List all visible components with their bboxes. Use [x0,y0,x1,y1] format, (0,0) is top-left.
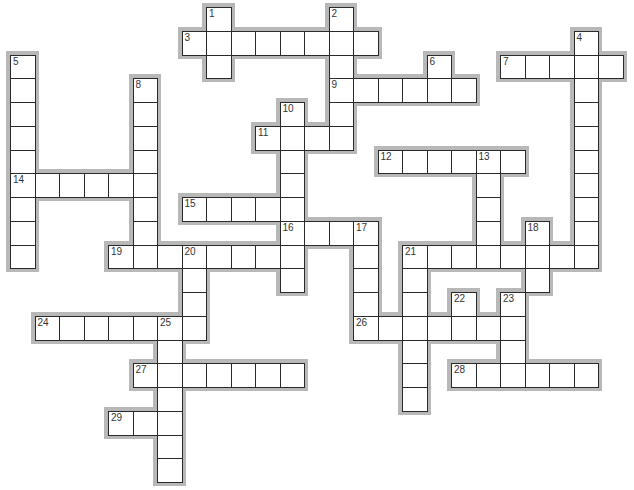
cell-letter-input[interactable] [60,317,84,340]
crossword-cell[interactable]: 2 [329,7,355,32]
cell-letter-input[interactable] [428,246,452,269]
crossword-cell[interactable] [574,126,600,151]
crossword-cell[interactable] [329,126,355,151]
crossword-cell[interactable] [280,245,306,270]
crossword-cell[interactable] [304,126,330,151]
crossword-cell[interactable] [525,245,551,270]
crossword-cell[interactable] [476,197,502,222]
crossword-cell[interactable] [280,268,306,293]
cell-letter-input[interactable] [207,198,231,221]
cell-letter-input[interactable] [36,317,60,340]
crossword-cell[interactable]: 18 [525,221,551,246]
crossword-cell[interactable] [304,221,330,246]
crossword-cell[interactable] [525,363,551,388]
cell-letter-input[interactable] [85,174,109,197]
cell-letter-input[interactable] [575,103,599,126]
cell-letter-input[interactable] [158,317,182,340]
crossword-cell[interactable] [280,150,306,175]
cell-letter-input[interactable] [477,317,501,340]
crossword-cell[interactable] [329,102,355,127]
crossword-cell[interactable] [304,31,330,56]
cell-letter-input[interactable] [85,317,109,340]
crossword-cell[interactable] [206,245,232,270]
crossword-cell[interactable] [353,268,379,293]
crossword-cell[interactable]: 1 [206,7,232,32]
cell-letter-input[interactable] [599,56,623,79]
cell-letter-input[interactable] [575,32,599,55]
cell-letter-input[interactable] [452,151,476,174]
cell-letter-input[interactable] [428,79,452,102]
crossword-cell[interactable]: 25 [157,316,183,341]
cell-letter-input[interactable] [11,79,35,102]
crossword-cell[interactable] [182,316,208,341]
cell-letter-input[interactable] [452,364,476,387]
cell-letter-input[interactable] [354,32,378,55]
cell-letter-input[interactable] [11,198,35,221]
crossword-cell[interactable] [500,363,526,388]
crossword-cell[interactable]: 13 [476,150,502,175]
cell-letter-input[interactable] [109,246,133,269]
crossword-cell[interactable]: 16 [280,221,306,246]
cell-letter-input[interactable] [281,198,305,221]
crossword-cell[interactable] [500,340,526,365]
crossword-cell[interactable] [427,78,453,103]
cell-letter-input[interactable] [207,56,231,79]
cell-letter-input[interactable] [183,269,207,292]
crossword-cell[interactable]: 19 [108,245,134,270]
cell-letter-input[interactable] [403,293,427,316]
cell-letter-input[interactable] [403,246,427,269]
crossword-cell[interactable] [402,78,428,103]
crossword-cell[interactable]: 21 [402,245,428,270]
cell-letter-input[interactable] [354,222,378,245]
cell-letter-input[interactable] [281,222,305,245]
cell-letter-input[interactable] [11,127,35,150]
crossword-cell[interactable] [476,221,502,246]
crossword-cell[interactable] [574,221,600,246]
crossword-cell[interactable] [10,102,36,127]
crossword-cell[interactable] [402,268,428,293]
cell-letter-input[interactable] [477,174,501,197]
crossword-cell[interactable]: 4 [574,31,600,56]
crossword-cell[interactable] [59,316,85,341]
crossword-cell[interactable] [35,173,61,198]
cell-letter-input[interactable] [36,174,60,197]
crossword-cell[interactable] [10,126,36,151]
cell-letter-input[interactable] [403,317,427,340]
cell-letter-input[interactable] [60,174,84,197]
cell-letter-input[interactable] [354,269,378,292]
cell-letter-input[interactable] [403,269,427,292]
cell-letter-input[interactable] [134,127,158,150]
crossword-cell[interactable] [574,102,600,127]
cell-letter-input[interactable] [158,341,182,364]
cell-letter-input[interactable] [452,246,476,269]
cell-letter-input[interactable] [134,412,158,435]
crossword-cell[interactable] [402,363,428,388]
crossword-cell[interactable] [255,245,281,270]
crossword-cell[interactable] [10,150,36,175]
cell-letter-input[interactable] [477,364,501,387]
crossword-cell[interactable]: 26 [353,316,379,341]
crossword-cell[interactable]: 17 [353,221,379,246]
crossword-cell[interactable] [329,221,355,246]
crossword-cell[interactable] [402,387,428,412]
crossword-cell[interactable]: 14 [10,173,36,198]
cell-letter-input[interactable] [428,56,452,79]
crossword-cell[interactable] [108,173,134,198]
crossword-cell[interactable] [500,150,526,175]
cell-letter-input[interactable] [158,246,182,269]
cell-letter-input[interactable] [477,222,501,245]
cell-letter-input[interactable] [281,174,305,197]
crossword-cell[interactable] [574,197,600,222]
crossword-cell[interactable] [329,31,355,56]
cell-letter-input[interactable] [501,341,525,364]
crossword-cell[interactable]: 5 [10,55,36,80]
crossword-cell[interactable] [157,411,183,436]
cell-letter-input[interactable] [256,127,280,150]
crossword-cell[interactable] [402,150,428,175]
cell-letter-input[interactable] [256,198,280,221]
cell-letter-input[interactable] [207,246,231,269]
crossword-cell[interactable] [133,221,159,246]
cell-letter-input[interactable] [403,364,427,387]
crossword-cell[interactable] [574,173,600,198]
crossword-cell[interactable] [133,150,159,175]
